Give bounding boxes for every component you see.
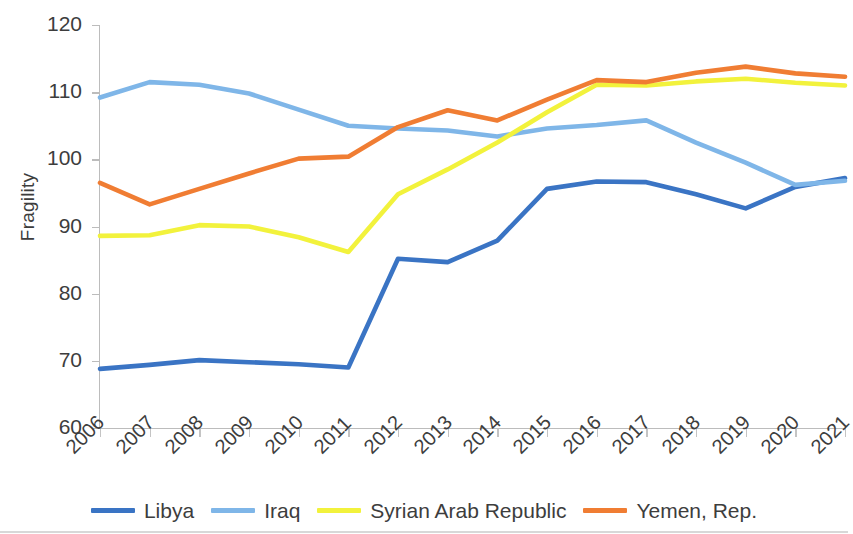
legend-swatch-icon: [583, 508, 627, 513]
series-line-iraq: [100, 82, 845, 185]
bottom-divider: [0, 531, 848, 533]
legend-item[interactable]: Iraq: [211, 500, 300, 521]
legend-item[interactable]: Yemen, Rep.: [583, 500, 757, 521]
legend-swatch-icon: [91, 508, 135, 513]
legend-item[interactable]: Libya: [91, 500, 194, 521]
legend-label: Syrian Arab Republic: [370, 500, 566, 521]
legend-swatch-icon: [211, 508, 255, 513]
legend-swatch-icon: [317, 508, 361, 513]
legend-label: Yemen, Rep.: [636, 500, 757, 521]
legend-label: Iraq: [264, 500, 300, 521]
series-line-libya: [100, 178, 845, 369]
series-line-syrian-arab-republic: [100, 79, 845, 252]
legend-label: Libya: [144, 500, 194, 521]
legend-item[interactable]: Syrian Arab Republic: [317, 500, 566, 521]
chart-legend: LibyaIraqSyrian Arab RepublicYemen, Rep.: [0, 500, 848, 521]
